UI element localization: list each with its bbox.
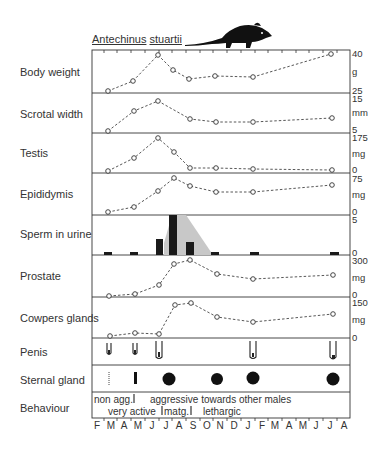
month-label: A <box>118 420 130 431</box>
month-label: M <box>297 420 309 431</box>
series-prostate <box>109 260 333 296</box>
series-cowpers <box>110 303 333 336</box>
mouse-icon <box>185 23 272 48</box>
month-label: M <box>105 420 117 431</box>
month-label: D <box>228 420 240 431</box>
month-label: S <box>187 420 199 431</box>
month-label: M <box>132 420 144 431</box>
behaviour-non-aggressive: non agg. <box>94 394 133 405</box>
behaviour-mating: matg. <box>164 406 189 417</box>
behaviour-aggressive: aggressive towards other males <box>150 394 291 405</box>
month-label: J <box>146 420 158 431</box>
data-markers <box>106 52 336 339</box>
month-label: O <box>201 420 213 431</box>
series-body-weight <box>108 54 331 91</box>
month-label: J <box>242 420 254 431</box>
month-label: N <box>214 420 226 431</box>
series-testis <box>108 138 332 171</box>
behaviour-very-active: very active <box>108 406 156 417</box>
month-label: A <box>283 420 295 431</box>
month-label: J <box>324 420 336 431</box>
month-label: A <box>173 420 185 431</box>
behaviour-lethargic: lethargic <box>203 406 241 417</box>
month-label: F <box>91 420 103 431</box>
month-label: J <box>160 420 172 431</box>
month-label: F <box>256 420 268 431</box>
month-label: J <box>310 420 322 431</box>
series-epididymis <box>108 178 332 212</box>
sternal-glyphs <box>109 372 340 387</box>
sperm-bars <box>104 215 339 255</box>
penis-glyphs <box>107 341 336 359</box>
series-scrotal-width <box>108 101 332 131</box>
month-label: A <box>338 420 350 431</box>
chart-canvas <box>0 0 383 451</box>
month-label: M <box>269 420 281 431</box>
